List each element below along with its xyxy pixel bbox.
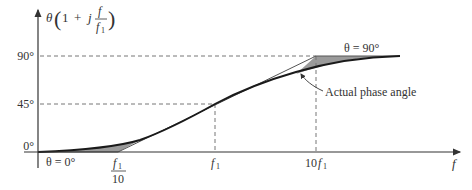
svg-text:1: 1 [118,162,122,171]
tick-90: 90° [17,49,34,63]
paren-open: ( [54,6,61,31]
theta-zero-label: θ = 0° [46,155,76,169]
leader-arrow [301,74,323,91]
actual-phase-label: Actual phase angle [325,85,416,99]
error-region-high [296,56,400,74]
phase-plot: θ ( 1 + j f f 1 ) 90° 45° 0° f 1 10 f 1 … [0,0,472,190]
svg-text:j: j [86,10,92,25]
svg-text:10: 10 [112,172,124,186]
error-region-low [38,140,140,152]
svg-text:1: 1 [216,162,220,171]
theta-ninety-label: θ = 90° [344,41,380,55]
tick-f1: f 1 [211,156,220,171]
svg-text:θ: θ [46,10,53,25]
tick-0: 0° [23,139,34,153]
svg-text:f: f [98,4,103,18]
svg-text:1: 1 [62,10,69,25]
tick-10f1: 10 f 1 [305,156,327,171]
svg-text:10: 10 [305,156,317,170]
tick-45: 45° [17,97,34,111]
x-axis-label: f [452,156,458,171]
svg-text:1: 1 [323,162,327,171]
tick-f1-over-10: f 1 10 [111,156,126,186]
svg-text:+: + [74,10,81,25]
paren-close: ) [108,6,115,31]
svg-text:1: 1 [101,26,105,35]
y-axis-label: θ ( 1 + j f f 1 ) [46,4,115,35]
